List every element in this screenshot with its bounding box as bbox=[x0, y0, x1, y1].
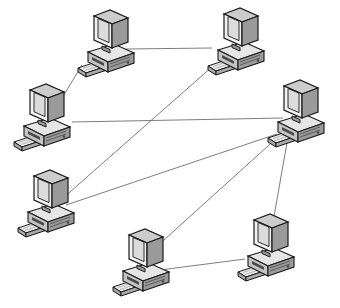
network-diagram-canvas: Computer 1Computer 2Computer 3Computer 4… bbox=[0, 0, 340, 308]
network-link-mid-left-to-mid-right-hub bbox=[72, 118, 283, 122]
network-link-mid-right-hub-to-bottom-right bbox=[273, 137, 288, 222]
computer-node-top-left[interactable]: Computer 1 bbox=[78, 10, 134, 77]
network-nodes-layer: Computer 1Computer 2Computer 3Computer 4… bbox=[14, 8, 324, 296]
network-link-lower-left-to-mid-right-hub bbox=[66, 134, 277, 205]
computer-node-top-right[interactable]: Computer 2 bbox=[208, 8, 264, 75]
computer-node-bottom-right[interactable]: Computer 7 bbox=[238, 214, 294, 281]
network-link-top-left-to-top-right bbox=[126, 48, 212, 49]
computer-node-mid-right-hub[interactable]: Computer 4 bbox=[268, 80, 324, 147]
computer-node-lower-left[interactable]: Computer 5 bbox=[18, 170, 74, 237]
network-link-top-right-to-lower-left bbox=[62, 66, 213, 199]
desktop-computer-icon bbox=[113, 229, 169, 296]
desktop-computer-icon bbox=[268, 80, 324, 147]
desktop-computer-icon bbox=[14, 84, 70, 151]
computer-node-bottom-center[interactable]: Computer 6 bbox=[113, 229, 169, 296]
desktop-computer-icon bbox=[208, 8, 264, 75]
network-diagram-svg: Computer 1Computer 2Computer 3Computer 4… bbox=[0, 0, 340, 308]
computer-node-mid-left[interactable]: Computer 3 bbox=[14, 84, 70, 151]
network-link-bottom-center-to-bottom-right bbox=[160, 259, 245, 270]
desktop-computer-icon bbox=[238, 214, 294, 281]
desktop-computer-icon bbox=[78, 10, 134, 77]
desktop-computer-icon bbox=[18, 170, 74, 237]
